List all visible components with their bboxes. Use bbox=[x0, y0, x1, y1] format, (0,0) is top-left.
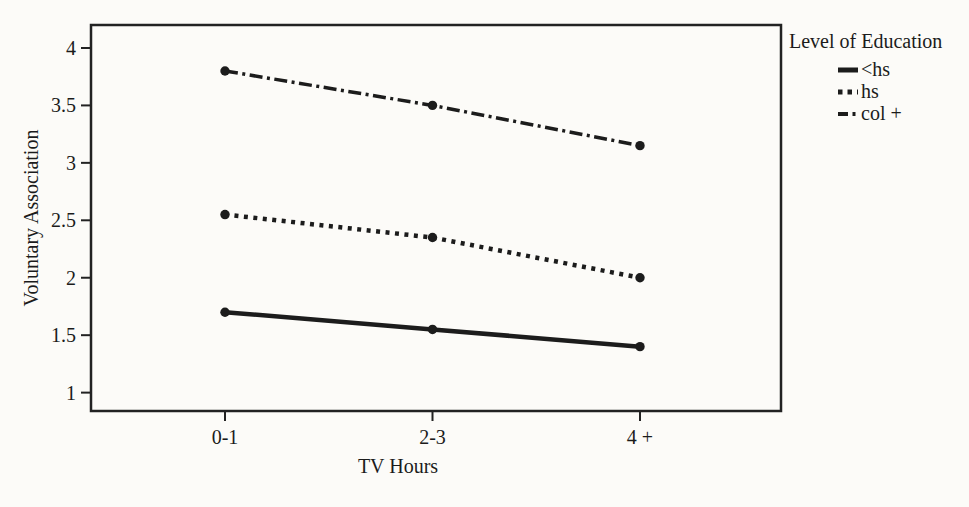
data-point-marker bbox=[428, 233, 437, 242]
series-lines bbox=[220, 66, 644, 351]
legend: Level of Education <hshscol + bbox=[789, 30, 942, 124]
legend-items: <hshscol + bbox=[838, 58, 902, 124]
data-point-marker bbox=[220, 210, 229, 219]
line-chart: 43.532.521.51 0-12-34 + Voluntary Associ… bbox=[0, 0, 969, 507]
y-tick-label: 4 bbox=[66, 37, 76, 59]
legend-label: hs bbox=[861, 80, 879, 102]
x-tick-label: 0-1 bbox=[212, 426, 239, 448]
data-point-marker bbox=[428, 101, 437, 110]
y-tick-label: 2.5 bbox=[51, 209, 76, 231]
plot-area-border bbox=[91, 25, 781, 411]
legend-label: <hs bbox=[861, 58, 890, 80]
x-tick-label: 4 + bbox=[627, 426, 653, 448]
y-tick-label: 1.5 bbox=[51, 324, 76, 346]
x-tick-label: 2-3 bbox=[419, 426, 446, 448]
y-tick-label: 2 bbox=[66, 267, 76, 289]
y-tick-label: 3 bbox=[66, 152, 76, 174]
y-axis-ticks: 43.532.521.51 bbox=[51, 37, 91, 404]
series-line-hs bbox=[225, 215, 640, 278]
data-point-marker bbox=[220, 66, 229, 75]
scanned-chart-figure: 43.532.521.51 0-12-34 + Voluntary Associ… bbox=[0, 0, 969, 507]
y-axis-title: Voluntary Association bbox=[20, 130, 43, 307]
data-point-marker bbox=[635, 141, 644, 150]
x-axis-title: TV Hours bbox=[358, 455, 438, 477]
x-axis-ticks: 0-12-34 + bbox=[212, 411, 653, 448]
data-point-marker bbox=[220, 308, 229, 317]
y-tick-label: 3.5 bbox=[51, 94, 76, 116]
legend-title: Level of Education bbox=[789, 30, 942, 52]
data-point-marker bbox=[635, 273, 644, 282]
data-point-marker bbox=[635, 342, 644, 351]
data-point-marker bbox=[428, 325, 437, 334]
y-tick-label: 1 bbox=[66, 382, 76, 404]
legend-label: col + bbox=[861, 102, 902, 124]
